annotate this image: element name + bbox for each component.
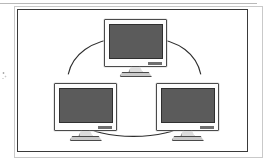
monitor-bottom-right[interactable] xyxy=(156,83,219,131)
monitor-bottom-left[interactable] xyxy=(54,83,117,131)
monitor-top-screen xyxy=(109,24,163,59)
monitor-bottom-right-stand-base xyxy=(171,136,204,141)
monitor-bottom-right-case xyxy=(156,83,219,131)
network-diagram xyxy=(18,10,247,151)
monitor-bottom-left-stand-base xyxy=(69,136,102,141)
monitor-top-brand-logo xyxy=(148,62,162,65)
scan-artifact-speck xyxy=(2,70,7,80)
figure-page xyxy=(0,0,267,165)
monitor-top-stand-base xyxy=(119,72,152,77)
monitor-top-case xyxy=(104,19,167,67)
monitor-bottom-right-brand-logo xyxy=(200,126,214,129)
figure-border xyxy=(17,9,248,152)
monitor-bottom-left-screen xyxy=(59,88,113,123)
page-rule-top xyxy=(0,3,257,4)
monitor-bottom-left-brand-logo xyxy=(98,126,112,129)
monitor-bottom-left-case xyxy=(54,83,117,131)
monitor-bottom-right-screen xyxy=(161,88,215,123)
monitor-top[interactable] xyxy=(104,19,167,67)
